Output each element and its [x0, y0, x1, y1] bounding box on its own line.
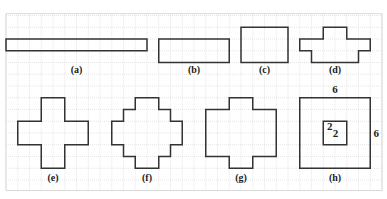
- dimension-label: 6: [373, 127, 379, 139]
- shape-label-b: (b): [188, 64, 200, 76]
- shape-label-h: (h): [329, 172, 341, 184]
- graph-paper-grid: [6, 14, 382, 191]
- shape-label-c: (c): [259, 64, 270, 76]
- shape-label-d: (d): [329, 64, 341, 76]
- shape-label-a: (a): [71, 64, 83, 76]
- dimension-label: 6: [332, 83, 338, 95]
- shape-label-e: (e): [47, 172, 58, 184]
- dimension-labels: 6622: [327, 83, 379, 138]
- shape-label-g: (g): [235, 172, 247, 184]
- shape-a: [6, 39, 147, 51]
- dimension-label: 2: [333, 127, 339, 139]
- grid-diagram: (a)(b)(c)(d)(e)(f)(g)(h) 6622: [0, 0, 387, 199]
- shape-label-f: (f): [142, 172, 152, 184]
- polyomino-grid-figure: (a)(b)(c)(d)(e)(f)(g)(h) 6622: [0, 0, 387, 199]
